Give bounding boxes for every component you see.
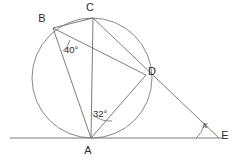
segment-CA — [91, 18, 93, 138]
angle-label-40-degrees: 40° — [64, 44, 79, 55]
angle-label-32-degrees: 32° — [93, 108, 108, 119]
segment-CE — [93, 18, 219, 138]
geometry-figure: A B C D E 40° 32° x — [0, 0, 236, 162]
vertex-label-E: E — [221, 129, 228, 141]
vertex-label-B: B — [38, 12, 45, 24]
vertex-label-C: C — [86, 1, 94, 13]
geometry-canvas: A B C D E 40° 32° x — [0, 0, 236, 162]
segment-BC — [53, 18, 93, 28]
segment-AD — [91, 75, 146, 138]
vertex-label-A: A — [84, 144, 92, 156]
vertex-label-D: D — [148, 65, 156, 77]
angle-label-x: x — [202, 119, 208, 130]
